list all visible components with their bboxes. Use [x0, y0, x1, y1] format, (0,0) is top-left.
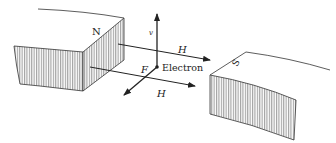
north-magnet: N: [14, 9, 124, 91]
field-line-upper-arrow: [118, 44, 210, 60]
south-front-face: [210, 75, 296, 140]
north-side-face: [83, 18, 124, 91]
south-magnet: S: [210, 52, 330, 140]
force-label: F: [140, 64, 149, 75]
north-front-face: [14, 46, 83, 91]
north-label: N: [92, 26, 101, 37]
velocity-label: v: [149, 29, 153, 37]
field-label-lower: H: [156, 88, 166, 99]
electron-label: Electron: [162, 62, 203, 73]
field-label-upper: H: [177, 44, 187, 55]
south-label: S: [230, 58, 242, 68]
electron-dot: [155, 65, 159, 69]
magnet-diagram: N S H H v F Electron: [0, 0, 336, 143]
